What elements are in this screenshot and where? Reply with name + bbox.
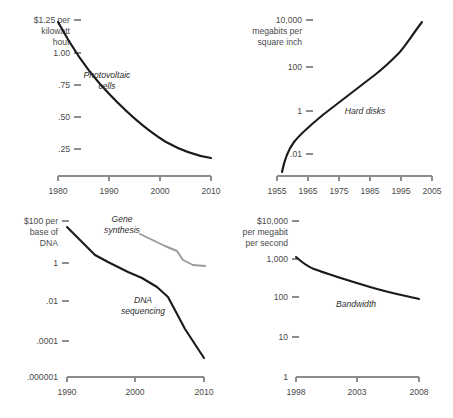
series-annotation-photovoltaic-cells-line2: cells bbox=[98, 81, 116, 91]
y-tick-label: $100 per bbox=[24, 216, 58, 226]
bandwidth-svg: $10,000 per megabit per second 1,000 100… bbox=[226, 205, 453, 418]
x-tick-label: 1995 bbox=[391, 186, 410, 196]
x-tick-label: 1990 bbox=[99, 186, 118, 196]
y-tick-label: .75 bbox=[58, 80, 70, 90]
series-line-hard-disks bbox=[282, 22, 422, 172]
y-tick-label: 1,000 bbox=[266, 254, 288, 264]
series-annotation-dna-sequencing: DNA bbox=[134, 295, 152, 305]
series-annotation-photovoltaic-cells: Photovoltaic bbox=[84, 70, 132, 80]
y-tick-label: .01 bbox=[290, 149, 302, 159]
x-tick-label: 1980 bbox=[48, 186, 67, 196]
chart-panel-dna-sequencing: $100 per base of DNA 1 .01 .0001 .000001… bbox=[0, 205, 226, 418]
y-tick-label: $1.25 per bbox=[34, 15, 70, 25]
y-axis-ticks bbox=[74, 20, 81, 149]
y-tick-label: 10 bbox=[278, 332, 288, 342]
x-tick-label: 1998 bbox=[286, 387, 305, 397]
x-axis bbox=[296, 377, 419, 382]
series-annotation-gene-synthesis: Gene bbox=[111, 214, 132, 224]
y-tick-label: 1 bbox=[297, 106, 302, 116]
series-annotation-dna-sequencing-line2: sequencing bbox=[121, 306, 165, 316]
x-axis bbox=[58, 176, 211, 181]
y-tick-label: $10,000 bbox=[257, 216, 288, 226]
chart-panel-bandwidth: $10,000 per megabit per second 1,000 100… bbox=[226, 205, 453, 418]
y-axis-ticks bbox=[306, 20, 313, 154]
y-tick-label: .0001 bbox=[36, 336, 58, 346]
y-axis-unit-line-3: DNA bbox=[40, 238, 58, 248]
photovoltaic-cells-svg: $1.25 per kilowatt hour 1.00 .75 .50 .25… bbox=[0, 0, 226, 205]
x-tick-label: 1955 bbox=[267, 186, 286, 196]
y-axis-unit-line-2: megabits per bbox=[252, 26, 302, 36]
y-tick-label-baseline: .000001 bbox=[27, 372, 58, 382]
chart-panel-hard-disks: 10,000 megabits per square inch 100 1 .0… bbox=[226, 0, 453, 205]
x-tick-label: 2000 bbox=[125, 387, 144, 397]
y-tick-label: 1 bbox=[53, 258, 58, 268]
y-axis-ticks bbox=[292, 221, 299, 337]
x-tick-label: 1965 bbox=[298, 186, 317, 196]
y-tick-label: 10,000 bbox=[276, 15, 303, 25]
x-tick-label: 2010 bbox=[201, 186, 220, 196]
x-tick-label: 2003 bbox=[347, 387, 366, 397]
y-tick-label: .25 bbox=[58, 144, 70, 154]
x-tick-label: 1985 bbox=[360, 186, 379, 196]
y-axis-ticks bbox=[62, 221, 69, 341]
y-tick-label: .01 bbox=[46, 296, 58, 306]
y-axis-unit-line-3: per second bbox=[245, 238, 288, 248]
y-axis-unit-line-2: base of bbox=[30, 227, 59, 237]
hard-disks-svg: 10,000 megabits per square inch 100 1 .0… bbox=[226, 0, 453, 205]
series-annotation-bandwidth: Bandwidth bbox=[336, 299, 376, 309]
x-axis bbox=[67, 377, 204, 382]
x-tick-label: 2000 bbox=[150, 186, 169, 196]
x-tick-label: 2005 bbox=[422, 186, 441, 196]
series-line-photovoltaic-cells bbox=[58, 22, 211, 158]
x-axis bbox=[277, 176, 432, 181]
dna-sequencing-svg: $100 per base of DNA 1 .01 .0001 .000001… bbox=[0, 205, 226, 418]
y-axis-unit-line-3: square inch bbox=[258, 37, 303, 47]
y-tick-label-baseline: 1 bbox=[283, 372, 288, 382]
series-line-gene-synthesis bbox=[140, 234, 205, 266]
series-annotation-gene-synthesis-line2: synthesis bbox=[104, 225, 141, 235]
y-tick-label: 100 bbox=[274, 292, 289, 302]
multi-panel-figure: $1.25 per kilowatt hour 1.00 .75 .50 .25… bbox=[0, 0, 453, 418]
x-tick-label: 2010 bbox=[194, 387, 213, 397]
series-annotation-hard-disks: Hard disks bbox=[345, 106, 386, 116]
x-tick-label: 2008 bbox=[409, 387, 428, 397]
x-tick-label: 1990 bbox=[57, 387, 76, 397]
y-tick-label: 100 bbox=[288, 62, 303, 72]
series-line-bandwidth bbox=[296, 257, 419, 299]
y-axis-unit-line-2: per megabit bbox=[243, 227, 289, 237]
y-tick-label: .50 bbox=[58, 112, 70, 122]
x-tick-label: 1975 bbox=[329, 186, 348, 196]
y-tick-label: 1.00 bbox=[53, 48, 70, 58]
chart-panel-photovoltaic-cells: $1.25 per kilowatt hour 1.00 .75 .50 .25… bbox=[0, 0, 226, 205]
series-line-dna-sequencing bbox=[67, 227, 204, 358]
